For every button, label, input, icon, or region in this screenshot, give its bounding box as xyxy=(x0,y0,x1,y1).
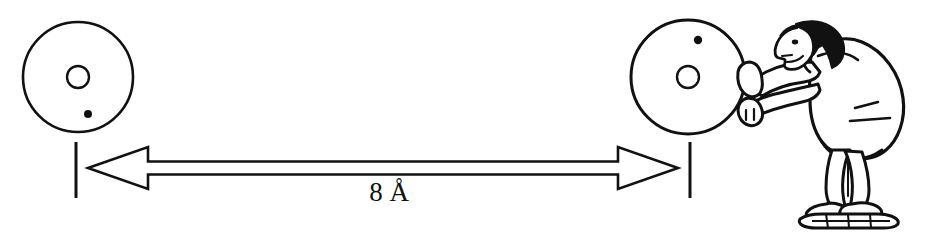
right-disk-center-hole-icon xyxy=(677,66,699,88)
person-eye-icon xyxy=(792,40,798,45)
left-disk-center-hole-icon xyxy=(67,66,89,88)
person-pushing-disk xyxy=(738,21,904,228)
person-upper-hand xyxy=(738,62,763,97)
right-disk-marker-dot-icon xyxy=(694,36,702,44)
skateboard-slat-4 xyxy=(870,214,871,228)
person-coat xyxy=(810,39,904,159)
person-front-leg xyxy=(826,150,850,207)
right-disk xyxy=(631,20,745,134)
distance-label: 8 Å xyxy=(88,176,690,208)
physics-figure: 8 Å xyxy=(0,0,926,236)
skateboard-slat-3 xyxy=(848,214,849,228)
person-lower-hand xyxy=(738,98,763,126)
left-disk-marker-dot-icon xyxy=(84,110,92,118)
person-mouth xyxy=(782,55,792,56)
left-disk xyxy=(23,22,133,132)
